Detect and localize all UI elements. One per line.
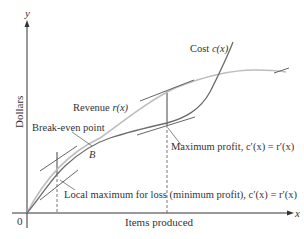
local-max-loss-label: Local maximum for loss (minimum profit),…	[64, 189, 298, 201]
break-even-point-label: B	[89, 149, 96, 160]
leader-lines	[60, 128, 182, 190]
cost-label: Cost c(x)	[190, 43, 229, 55]
max-profit-label: Maximum profit, c′(x) = r′(x)	[171, 141, 295, 153]
y-axis-arrow-icon	[25, 20, 30, 27]
y-axis-title: Dollars	[13, 96, 25, 128]
break-even-leader	[72, 132, 92, 146]
tangent-lines	[40, 68, 289, 200]
y-axis-var: y	[24, 7, 30, 19]
origin-label: 0	[17, 215, 23, 227]
cost-revenue-diagram: y x 0 Items produced Dollars Cost c(x) R…	[0, 0, 304, 239]
revenue-label: Revenue r(x)	[73, 102, 129, 114]
break-even-label: Break-even point	[32, 122, 105, 133]
x-axis-arrow-icon	[287, 211, 294, 216]
cost-tangent-max	[137, 117, 195, 135]
x-axis-var: x	[294, 207, 300, 219]
x-axis-title: Items produced	[125, 216, 194, 228]
